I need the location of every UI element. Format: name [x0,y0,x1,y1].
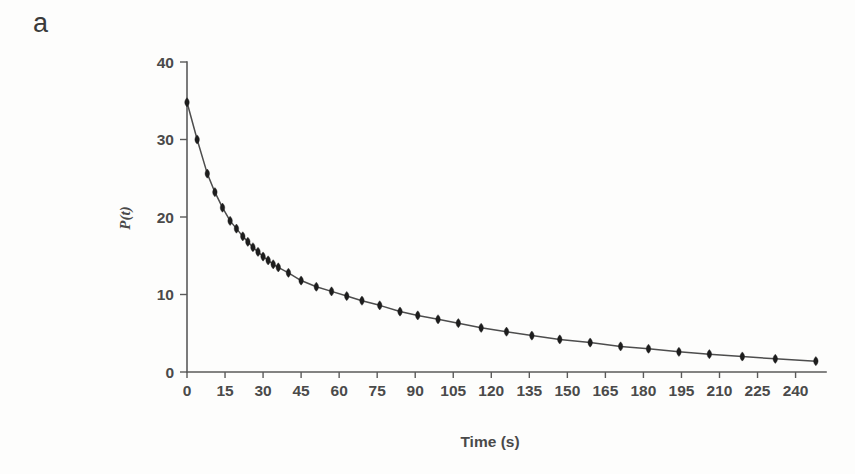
data-point-25 [456,319,461,328]
x-tick-label-0: 0 [183,382,192,399]
figure-panel: a 01530456075901051201351501651801952102… [0,0,855,474]
x-tick-label-225: 225 [745,382,771,399]
x-tick-label-210: 210 [707,382,733,399]
data-point-23 [416,311,421,320]
series-markers-pt [185,98,818,366]
x-tick-label-105: 105 [440,382,466,399]
x-tick-label-120: 120 [478,382,504,399]
y-tick-label-20: 20 [157,209,174,226]
data-point-6 [234,224,239,233]
x-tick-label-135: 135 [516,382,542,399]
data-point-36 [773,354,778,363]
y-axis-tick-labels: 010203040 [157,54,174,381]
data-point-12 [266,256,271,265]
x-axis-title: Time (s) [460,433,519,450]
data-point-22 [398,307,403,316]
x-tick-label-165: 165 [592,382,618,399]
x-tick-label-90: 90 [407,382,424,399]
y-tick-label-10: 10 [157,286,174,303]
y-axis-title: P(t) [117,206,134,229]
data-point-16 [299,276,304,285]
y-axis-tick-marks [180,62,187,372]
data-point-10 [256,247,261,256]
data-point-37 [814,357,819,366]
x-tick-label-45: 45 [292,382,310,399]
data-point-35 [740,352,745,361]
data-point-9 [251,243,256,252]
data-point-17 [314,282,319,291]
data-point-29 [558,335,563,344]
y-tick-label-30: 30 [157,131,174,148]
data-point-24 [436,315,441,324]
data-point-8 [246,237,251,246]
x-axis-tick-marks [187,372,796,378]
data-point-30 [588,338,593,347]
data-point-26 [479,323,484,332]
x-tick-label-60: 60 [331,382,348,399]
x-tick-label-240: 240 [783,382,809,399]
data-point-14 [276,263,281,272]
x-tick-label-195: 195 [669,382,695,399]
data-point-28 [530,331,535,340]
x-tick-label-150: 150 [554,382,580,399]
data-point-11 [261,252,266,261]
x-tick-label-30: 30 [254,382,271,399]
data-point-19 [345,291,350,300]
x-tick-label-75: 75 [369,382,387,399]
x-tick-label-180: 180 [630,382,656,399]
data-point-13 [271,260,276,269]
x-tick-label-15: 15 [216,382,234,399]
data-point-32 [646,344,651,353]
data-point-31 [618,342,623,351]
decay-curve-chart: 0153045607590105120135150165180195210225… [0,0,855,474]
data-point-7 [241,232,246,241]
data-point-21 [377,301,382,310]
data-point-18 [329,287,334,296]
series-line-pt [187,102,816,361]
data-point-20 [360,296,365,305]
data-point-27 [504,327,509,336]
data-point-15 [286,268,291,277]
y-tick-label-0: 0 [165,364,174,381]
data-point-34 [707,350,712,359]
data-point-33 [677,347,682,356]
y-tick-label-40: 40 [157,54,174,71]
x-axis-tick-labels: 0153045607590105120135150165180195210225… [183,382,809,399]
